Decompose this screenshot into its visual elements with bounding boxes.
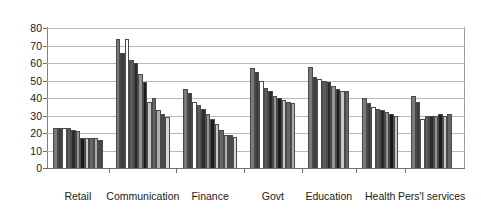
bar-group — [250, 28, 295, 168]
bar — [291, 103, 296, 168]
plot-area — [47, 28, 465, 168]
y-axis: 80706050403020100 — [12, 0, 42, 217]
y-axis-tick-label: 10 — [16, 146, 42, 156]
x-axis-group-separator — [109, 168, 110, 173]
y-axis-tick-mark — [43, 81, 47, 82]
x-axis-category-label: Finance — [191, 190, 228, 202]
bar — [233, 137, 238, 169]
y-axis-tick-label: 70 — [16, 41, 42, 51]
x-axis-group-separator — [244, 168, 245, 173]
x-axis-category-label: Govt — [262, 190, 284, 202]
bar-group — [116, 28, 170, 168]
y-axis-tick-mark — [43, 151, 47, 152]
bar-chart: 80706050403020100 RetailCommunicationFin… — [0, 0, 481, 217]
y-axis-tick-label: 40 — [16, 93, 42, 103]
y-axis-tick-mark — [43, 168, 47, 169]
x-axis-group-separator — [356, 168, 357, 173]
y-axis-tick-mark — [43, 98, 47, 99]
bar-group — [53, 28, 103, 168]
y-axis-tick-label: 0 — [16, 163, 42, 173]
bar — [98, 140, 103, 168]
bar-group — [308, 28, 349, 168]
y-axis-tick-mark — [43, 63, 47, 64]
y-axis-tick-mark — [43, 116, 47, 117]
y-axis-tick-label: 80 — [16, 23, 42, 33]
y-axis-tick-label: 30 — [16, 111, 42, 121]
x-axis-category-label: Health — [365, 190, 395, 202]
y-axis-tick-label: 20 — [16, 128, 42, 138]
x-axis-group-separator — [176, 168, 177, 173]
bar — [165, 117, 170, 168]
y-axis-tick-label: 50 — [16, 76, 42, 86]
x-axis-category-label: Retail — [64, 190, 91, 202]
y-axis-tick-mark — [43, 46, 47, 47]
x-axis-category-label: Communication — [106, 190, 179, 202]
bar-group — [362, 28, 398, 168]
bar-group — [183, 28, 237, 168]
bar — [345, 91, 350, 168]
x-axis-category-label: Pers'l services — [398, 190, 465, 202]
y-axis-tick-label: 60 — [16, 58, 42, 68]
y-axis-tick-mark — [43, 133, 47, 134]
x-axis-category-label: Education — [305, 190, 352, 202]
x-axis: RetailCommunicationFinanceGovtEducationH… — [0, 190, 481, 210]
bar — [447, 114, 452, 168]
x-axis-group-separator — [405, 168, 406, 173]
bar — [394, 116, 399, 169]
y-axis-tick-mark — [43, 28, 47, 29]
bar-group — [411, 28, 452, 168]
x-axis-group-separator — [302, 168, 303, 173]
